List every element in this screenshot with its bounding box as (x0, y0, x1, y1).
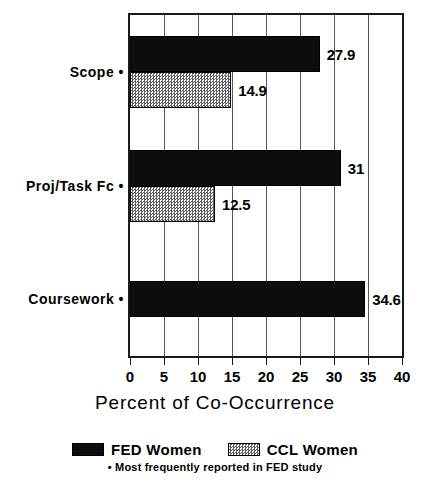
chart-container: Percent of Co-Occurrence FED Women CCL W… (0, 0, 430, 482)
x-axis-tick-mark (402, 358, 403, 365)
plot-area (128, 13, 404, 358)
x-axis-tick-label: 40 (394, 368, 411, 385)
bar-fed (130, 150, 341, 186)
bar-value-label: 31 (348, 159, 364, 176)
legend-swatch-fed-women (72, 443, 104, 456)
x-axis-tick-mark (198, 358, 199, 365)
y-axis-category-label: Proj/Task Fc • (0, 178, 124, 194)
bar-value-label: 27.9 (327, 45, 355, 62)
bar-fed (130, 36, 320, 72)
legend-label-fed-women: FED Women (111, 441, 202, 458)
x-axis-tick-label: 5 (160, 368, 168, 385)
x-axis-tick-label: 20 (258, 368, 275, 385)
bar-value-label: 12.5 (222, 195, 250, 212)
legend-label-ccl-women: CCL Women (267, 441, 358, 458)
x-axis-tick-mark (266, 358, 267, 365)
legend-item-ccl-women: CCL Women (228, 441, 358, 458)
x-axis-tick-label: 30 (326, 368, 343, 385)
legend-swatch-ccl-women (228, 443, 260, 456)
bar-value-label: 34.6 (372, 291, 400, 308)
bar-ccl (130, 72, 231, 108)
bar-ccl (130, 186, 215, 222)
y-axis-category-label: Coursework • (0, 291, 124, 307)
legend-item-fed-women: FED Women (72, 441, 202, 458)
x-axis-tick-mark (164, 358, 165, 365)
x-axis-tick-mark (300, 358, 301, 365)
x-axis-tick-mark (130, 358, 131, 365)
x-axis-tick-label: 25 (292, 368, 309, 385)
gridline (368, 15, 369, 356)
x-axis-tick-label: 10 (190, 368, 207, 385)
chart-footnote: • Most frequently reported in FED study (0, 461, 430, 473)
bar-value-label: 14.9 (238, 81, 266, 98)
chart-legend: FED Women CCL Women (0, 441, 430, 458)
x-axis-tick-mark (334, 358, 335, 365)
x-axis-tick-label: 0 (126, 368, 134, 385)
x-axis-tick-label: 35 (360, 368, 377, 385)
y-axis-category-label: Scope • (0, 64, 124, 80)
x-axis-title: Percent of Co-Occurrence (0, 392, 430, 414)
x-axis-tick-mark (368, 358, 369, 365)
bar-fed (130, 281, 365, 317)
x-axis-tick-label: 15 (224, 368, 241, 385)
x-axis-tick-mark (232, 358, 233, 365)
